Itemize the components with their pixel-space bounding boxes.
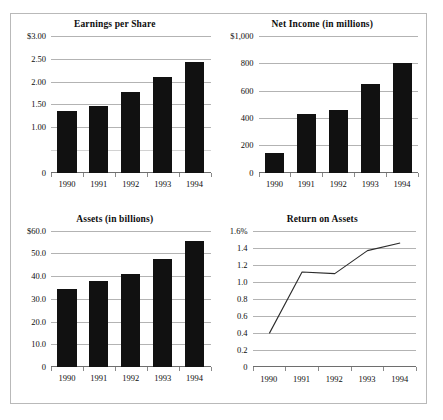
y-axis-label-assets: $60.0	[27, 226, 46, 236]
y-axis-label-return-on-assets: 1.2	[237, 260, 248, 270]
x-axis-tick	[115, 367, 116, 371]
chart-panel-assets: Assets (in billions) $60.050.040.030.020…	[11, 209, 219, 404]
y-axis-label-net-income: 400	[241, 113, 254, 123]
line-path	[269, 242, 400, 332]
x-axis-label-earnings-per-share: 1992	[115, 179, 147, 189]
x-axis-label-earnings-per-share: 1991	[83, 179, 115, 189]
chart-panel-earnings-per-share: Earnings per Share $3.002.502.001.501.00…	[11, 14, 219, 209]
x-axis-tick	[290, 173, 291, 177]
x-axis-labels: 19901991199219931994	[259, 179, 419, 189]
y-axis-label-net-income: $1,000	[230, 31, 253, 41]
y-axis-label-net-income: 200	[241, 140, 254, 150]
bar-1993	[153, 77, 172, 173]
x-axis-label-net-income: 1992	[322, 179, 354, 189]
bar-1991	[89, 281, 108, 367]
y-axis-label-assets: 30.0	[31, 294, 46, 304]
x-axis-ticks	[51, 367, 211, 371]
y-axis-label-net-income: 0	[249, 168, 253, 178]
x-axis-tick	[179, 367, 180, 371]
x-axis-label-assets: 1992	[115, 373, 147, 383]
bar-slot	[83, 36, 115, 173]
y-axis-label-net-income: 600	[241, 86, 254, 96]
x-axis-tick	[354, 173, 355, 177]
y-axis-label-assets: 50.0	[31, 248, 46, 258]
bar-1994	[185, 241, 204, 367]
y-axis-label-return-on-assets: 0.8	[237, 294, 248, 304]
x-axis-tick	[259, 173, 260, 177]
x-axis-label-earnings-per-share: 1994	[179, 179, 211, 189]
bar-series-net-income	[259, 36, 419, 173]
x-axis-tick	[51, 173, 52, 177]
x-axis-tick	[322, 173, 323, 177]
x-axis-label-net-income: 1990	[259, 179, 291, 189]
y-axis-label-earnings-per-share: 0	[42, 168, 46, 178]
y-axis-label-return-on-assets: 1.4	[237, 243, 248, 253]
y-axis-label-net-income: 800	[241, 58, 254, 68]
chart-panel-net-income: Net Income (in millions) $1,000800600400…	[219, 14, 427, 209]
x-axis-label-earnings-per-share: 1993	[147, 179, 179, 189]
chart-title-net-income: Net Income (in millions)	[219, 19, 427, 29]
x-axis-tick	[318, 367, 319, 371]
bar-series-assets	[51, 231, 211, 368]
x-axis-ticks	[259, 173, 419, 177]
y-axis-label-assets: 10.0	[31, 339, 46, 349]
bar-1994	[393, 63, 412, 173]
x-axis-ticks	[51, 173, 211, 177]
y-axis-label-assets: 20.0	[31, 317, 46, 327]
y-axis-label-return-on-assets: 0.2	[237, 345, 248, 355]
bar-slot	[179, 231, 211, 368]
y-axis-label-earnings-per-share: 1.50	[31, 99, 46, 109]
y-axis-label-return-on-assets: 0	[243, 362, 247, 372]
plot-area-return-on-assets: 1.6%1.41.21.00.80.60.40.2019901991199219…	[253, 231, 417, 368]
plot-area-net-income: $1,000800600400200019901991199219931994	[259, 36, 419, 173]
bar-slot	[51, 231, 83, 368]
bar-1990	[57, 111, 76, 172]
bar-1992	[329, 110, 348, 172]
x-axis-tick	[179, 173, 180, 177]
x-axis-tick	[211, 367, 212, 371]
bar-slot	[51, 36, 83, 173]
x-axis-label-return-on-assets: 1993	[351, 374, 384, 384]
bar-1990	[57, 289, 76, 367]
bar-slot	[322, 36, 354, 173]
x-axis-label-net-income: 1994	[386, 179, 418, 189]
x-axis-label-return-on-assets: 1991	[285, 374, 318, 384]
x-axis-tick	[211, 173, 212, 177]
y-axis-label-return-on-assets: 0.6	[237, 311, 248, 321]
x-axis-labels: 19901991199219931994	[253, 374, 417, 384]
x-axis-tick	[51, 367, 52, 371]
bar-slot	[115, 36, 147, 173]
x-axis-label-assets: 1993	[147, 373, 179, 383]
bar-1992	[121, 274, 140, 367]
x-axis-tick	[386, 173, 387, 177]
x-axis-tick	[383, 367, 384, 371]
y-axis-label-assets: 40.0	[31, 271, 46, 281]
y-axis-label-return-on-assets: 1.0	[237, 277, 248, 287]
x-axis-ticks	[253, 367, 417, 371]
x-axis-label-net-income: 1991	[290, 179, 322, 189]
plot-area-earnings-per-share: $3.002.502.001.501.000199019911992199319…	[51, 36, 211, 173]
x-axis-label-assets: 1991	[83, 373, 115, 383]
chart-panel-return-on-assets: Return on Assets 1.6%1.41.21.00.80.60.40…	[219, 209, 427, 404]
y-axis-label-assets: 0	[42, 362, 46, 372]
x-axis-tick	[253, 367, 254, 371]
x-axis-label-return-on-assets: 1992	[318, 374, 351, 384]
bar-1993	[153, 259, 172, 367]
plot-area-assets: $60.050.040.030.020.010.0019901991199219…	[51, 231, 211, 368]
x-axis-label-net-income: 1993	[354, 179, 386, 189]
bar-1991	[89, 106, 108, 173]
chart-title-earnings-per-share: Earnings per Share	[11, 19, 219, 29]
x-axis-label-return-on-assets: 1994	[383, 374, 416, 384]
x-axis-labels: 19901991199219931994	[51, 179, 211, 189]
x-axis-label-return-on-assets: 1990	[253, 374, 286, 384]
bar-series-earnings-per-share	[51, 36, 211, 173]
bar-slot	[354, 36, 386, 173]
x-axis-labels: 19901991199219931994	[51, 373, 211, 383]
financial-charts-figure: Earnings per Share $3.002.502.001.501.00…	[10, 13, 427, 404]
x-axis-label-earnings-per-share: 1990	[51, 179, 83, 189]
y-axis-label-return-on-assets: 0.4	[237, 328, 248, 338]
bar-slot	[179, 36, 211, 173]
x-axis-tick	[147, 367, 148, 371]
bar-1994	[185, 62, 204, 173]
x-axis-label-assets: 1994	[179, 373, 211, 383]
